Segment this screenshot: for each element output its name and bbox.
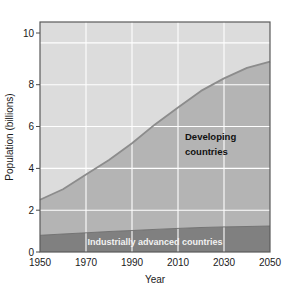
y-tick-6: 6 [28,121,34,132]
x-tick-1970: 1970 [75,257,98,268]
annotation-developing-line1: Developing [185,131,236,142]
x-tick-2050: 2050 [259,257,282,268]
y-tick-0: 0 [28,247,34,258]
population-projection-chart: 10 8 6 4 2 0 1950 1970 1990 2010 2030 20… [0,0,300,291]
x-axis-title: Year [145,274,166,285]
annotation-developing-line2: countries [185,146,228,157]
y-tick-10: 10 [23,28,35,39]
annotation-industrial-countries: Industrially advanced countries [87,237,222,247]
y-tick-4: 4 [28,163,34,174]
x-tick-2010: 2010 [167,257,190,268]
x-tick-1990: 1990 [121,257,144,268]
x-tick-2030: 2030 [213,257,236,268]
y-axis-title: Population (billions) [4,93,15,180]
y-tick-2: 2 [28,205,34,216]
x-tick-1950: 1950 [29,257,52,268]
chart-figure: 10 8 6 4 2 0 1950 1970 1990 2010 2030 20… [0,0,300,291]
y-tick-8: 8 [28,79,34,90]
